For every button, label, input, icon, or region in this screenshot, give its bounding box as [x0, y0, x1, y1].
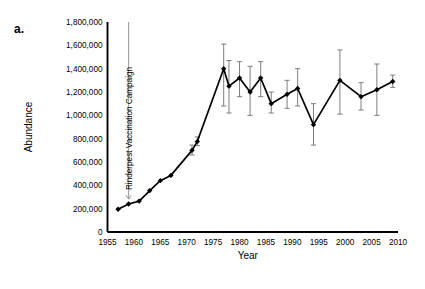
y-tick-label: 0 [98, 228, 103, 237]
y-tick-label: 800,000 [73, 135, 103, 144]
abundance-line-chart: Rinderpest Vaccination Campaign 0200,000… [0, 0, 425, 289]
x-tick-label: 1960 [125, 238, 144, 247]
y-tick-label: 400,000 [73, 181, 103, 190]
error-bars-group [189, 44, 395, 155]
x-tick-label: 1980 [230, 238, 249, 247]
data-series-line [118, 69, 393, 210]
x-tick-label: 2000 [336, 238, 355, 247]
data-point-markers-group [115, 66, 395, 212]
axes-group [108, 22, 399, 232]
y-axis-title: Abundance [23, 101, 34, 152]
y-tick-label: 1,400,000 [66, 65, 103, 74]
x-tick-label: 1955 [98, 238, 117, 247]
data-point-marker [221, 66, 226, 71]
annotation-group: Rinderpest Vaccination Campaign [125, 22, 134, 199]
x-tick-label: 1975 [204, 238, 223, 247]
annotation-label: Rinderpest Vaccination Campaign [125, 66, 134, 190]
y-tick-label: 1,600,000 [66, 41, 103, 50]
figure-panel: a. Rinderpest Vaccination Campaign 0200,… [0, 0, 425, 289]
x-tick-label: 1965 [151, 238, 170, 247]
x-tick-label: 2005 [362, 238, 381, 247]
data-point-marker [115, 207, 120, 212]
x-tick-labels-group: 1955196019651970197519801985199019952000… [98, 238, 407, 247]
y-tick-label: 200,000 [73, 205, 103, 214]
x-tick-label: 1985 [257, 238, 276, 247]
x-axis-title: Year [238, 250, 259, 261]
y-tick-label: 1,800,000 [66, 18, 103, 27]
y-tick-labels-group: 0200,000400,000600,000800,0001,000,0001,… [66, 18, 103, 237]
series-line-group [118, 69, 393, 210]
x-tick-label: 1990 [283, 238, 302, 247]
y-tick-label: 1,200,000 [66, 88, 103, 97]
x-tick-label: 2010 [389, 238, 408, 247]
y-tick-label: 1,000,000 [66, 111, 103, 120]
data-point-marker [126, 201, 131, 206]
x-tick-label: 1970 [178, 238, 197, 247]
y-tick-label: 600,000 [73, 158, 103, 167]
x-tick-label: 1995 [310, 238, 329, 247]
